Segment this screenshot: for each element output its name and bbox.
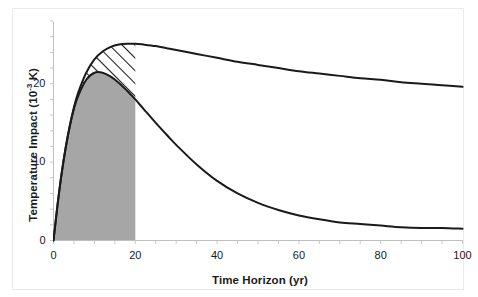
chart-plot-area [0,0,478,297]
gray-region [54,72,136,240]
y-tick-label: 20 [20,77,46,89]
y-tick-label: 10 [20,155,46,167]
x-tick-label: 20 [120,249,150,261]
x-tick-label: 0 [39,249,69,261]
x-tick-label: 40 [202,249,232,261]
x-axis-title: Time Horizon (yr) [130,274,390,286]
gray-filled-area [54,72,136,240]
x-tick-label: 60 [284,249,314,261]
y-tick-label: 0 [20,234,46,246]
x-tick-label: 100 [448,249,478,261]
chart-figure: Temperature Impact (10-3 K) Time Horizon… [0,0,478,297]
x-tick-label: 80 [366,249,396,261]
